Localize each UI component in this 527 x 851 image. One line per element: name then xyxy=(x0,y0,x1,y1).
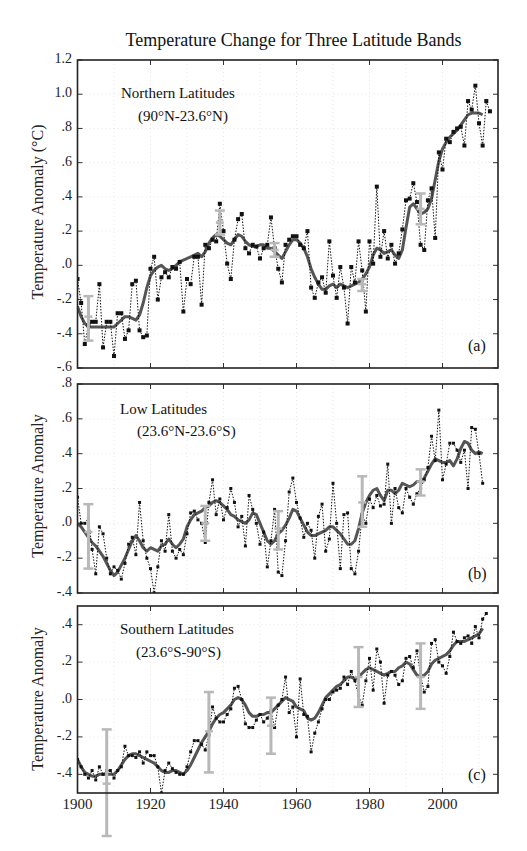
data-point xyxy=(215,717,218,720)
data-point xyxy=(441,478,444,481)
x-tick-label: 2000 xyxy=(418,796,468,813)
data-point xyxy=(262,531,265,534)
data-point xyxy=(189,511,192,514)
data-point xyxy=(258,256,262,260)
data-point xyxy=(113,565,116,568)
data-point xyxy=(357,550,360,553)
data-point xyxy=(371,262,375,266)
data-point xyxy=(229,707,232,710)
data-point xyxy=(164,550,167,553)
data-point xyxy=(383,503,386,506)
data-point xyxy=(251,508,254,511)
data-point xyxy=(353,572,356,575)
data-point xyxy=(412,503,415,506)
data-point xyxy=(101,345,105,349)
data-point xyxy=(237,685,240,688)
data-point xyxy=(291,234,295,238)
data-point xyxy=(437,661,440,664)
data-point xyxy=(401,679,404,682)
data-point xyxy=(251,243,255,247)
data-point xyxy=(156,298,160,302)
data-point xyxy=(185,277,189,281)
data-point xyxy=(313,296,317,300)
data-point xyxy=(386,674,389,677)
data-point xyxy=(225,262,229,266)
data-point xyxy=(109,572,112,575)
data-point xyxy=(167,275,171,279)
error-bar xyxy=(102,729,112,836)
data-point xyxy=(456,449,459,452)
data-point xyxy=(302,713,305,716)
data-point xyxy=(170,265,174,269)
data-point xyxy=(218,202,222,206)
data-point xyxy=(378,255,382,259)
data-point xyxy=(288,711,291,714)
data-point xyxy=(448,442,451,445)
data-point xyxy=(152,255,156,259)
data-point xyxy=(299,517,302,520)
data-point xyxy=(328,698,331,701)
data-point xyxy=(411,181,415,185)
data-point xyxy=(408,655,411,658)
data-point xyxy=(214,239,218,243)
data-point xyxy=(269,539,272,542)
data-point xyxy=(448,140,452,144)
data-point xyxy=(211,238,215,242)
error-bar xyxy=(83,296,93,340)
panel-frame xyxy=(78,60,499,368)
data-point xyxy=(131,754,134,757)
data-point xyxy=(134,756,137,759)
data-point xyxy=(389,243,393,247)
panel-title-c: Southern Latitudes xyxy=(120,621,234,638)
data-point xyxy=(244,722,247,725)
y-tick-label: .0 xyxy=(32,514,72,530)
data-point xyxy=(313,557,316,560)
data-point xyxy=(481,618,484,621)
data-point xyxy=(463,449,466,452)
data-point xyxy=(266,565,269,568)
data-point xyxy=(178,260,182,264)
data-point xyxy=(94,778,97,781)
data-point xyxy=(83,522,86,525)
data-point xyxy=(167,513,170,516)
data-point xyxy=(467,634,470,637)
data-point xyxy=(364,310,368,314)
figure: Temperature Change for Three Latitude Ba… xyxy=(0,0,527,851)
data-point xyxy=(102,532,105,535)
data-point xyxy=(422,248,426,252)
data-point xyxy=(335,296,339,300)
data-point xyxy=(280,574,283,577)
data-point xyxy=(255,522,258,525)
data-point xyxy=(98,525,101,528)
data-point xyxy=(357,239,361,243)
data-point xyxy=(452,631,455,634)
y-tick-label: -.4 xyxy=(32,584,72,600)
data-point xyxy=(186,532,189,535)
error-bar xyxy=(83,504,93,568)
y-tick-label: -.2 xyxy=(32,549,72,565)
data-point xyxy=(98,765,101,768)
error-bar xyxy=(416,193,426,224)
data-point xyxy=(138,750,141,753)
data-point xyxy=(284,243,288,247)
data-point xyxy=(302,536,305,539)
data-point xyxy=(434,638,437,641)
data-point xyxy=(332,691,335,694)
data-point xyxy=(470,642,473,645)
data-point xyxy=(255,719,258,722)
data-point xyxy=(375,494,378,497)
data-point xyxy=(346,683,349,686)
data-point xyxy=(130,282,134,286)
data-point xyxy=(277,571,280,574)
data-point xyxy=(291,477,294,480)
data-point xyxy=(175,771,178,774)
x-tick-label: 1980 xyxy=(345,796,395,813)
data-point xyxy=(262,246,266,250)
data-point xyxy=(462,144,466,148)
data-point xyxy=(364,522,367,525)
data-point xyxy=(175,557,178,560)
data-point xyxy=(87,777,90,780)
data-point xyxy=(248,494,251,497)
data-point xyxy=(298,243,302,247)
data-point xyxy=(182,553,185,556)
